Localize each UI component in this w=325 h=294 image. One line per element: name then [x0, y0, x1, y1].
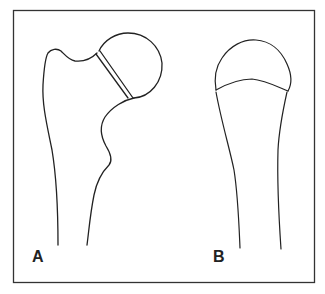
physis-line-outer — [96, 54, 128, 98]
growth-plate-line — [216, 79, 288, 91]
epiphysis-cap — [215, 40, 291, 91]
panel-b-bone-drawing — [215, 40, 291, 249]
femur-lateral-outline — [43, 49, 97, 245]
shaft-right-outline — [278, 92, 287, 249]
figure-frame — [14, 11, 315, 283]
shaft-left-outline — [216, 92, 240, 248]
panel-a-femur-drawing — [43, 33, 162, 245]
panel-label-b: B — [213, 249, 225, 265]
panel-label-a: A — [32, 249, 44, 265]
physis-line-inner — [100, 51, 133, 98]
femur-medial-outline — [87, 98, 134, 245]
diagram-canvas — [0, 0, 325, 294]
femoral-head — [99, 33, 162, 98]
